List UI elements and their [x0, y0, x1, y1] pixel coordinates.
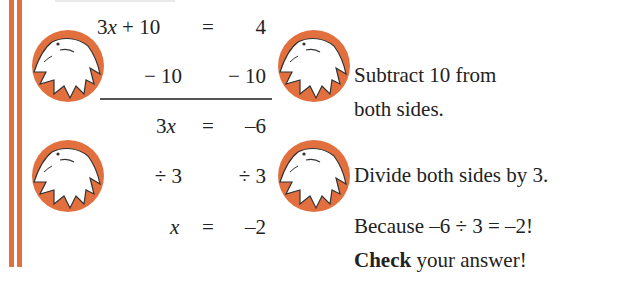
coefficient: 3	[97, 15, 108, 39]
subtraction-rule	[100, 98, 272, 100]
step-2-note: Divide both sides by 3.	[354, 158, 548, 192]
step-1-note-line-2: both sides.	[354, 92, 444, 126]
check-rest: your answer!	[411, 248, 526, 272]
variable: x	[108, 15, 117, 39]
left-orange-bar-inner	[17, 0, 22, 267]
equation-line-4-rhs: ÷ 3	[216, 164, 266, 188]
equation-line-3-rhs: –6	[226, 114, 266, 138]
equation-line-3-equals: =	[202, 114, 214, 138]
equation-line-4-lhs: ÷ 3	[130, 164, 182, 188]
hand-icon-right-top	[276, 28, 352, 104]
hand-icon-left-bottom	[30, 138, 106, 214]
step-1-note-line-1: Subtract 10 from	[354, 58, 496, 92]
equation-line-5-equals: =	[202, 215, 214, 239]
equation-line-5-lhs: x	[170, 215, 179, 239]
equation-line-3-lhs: 3x	[156, 114, 176, 138]
top-divider	[55, 0, 175, 2]
lhs-rest: + 10	[117, 15, 160, 39]
variable: x	[170, 215, 179, 239]
equation-line-1-lhs: 3x + 10	[97, 15, 160, 39]
hand-icon-right-bottom	[276, 138, 352, 214]
check-bold: Check	[354, 248, 411, 272]
equation-line-1-equals: =	[202, 15, 214, 39]
hand-icon-left-top	[30, 28, 106, 104]
equation-line-2-rhs: − 10	[206, 64, 266, 88]
variable: x	[167, 114, 176, 138]
because-note: Because –6 ÷ 3 = –2!	[354, 209, 533, 243]
coefficient: 3	[156, 114, 167, 138]
equation-line-5-rhs: –2	[226, 215, 266, 239]
left-orange-bar-outer	[9, 0, 14, 267]
equation-line-1-rhs: 4	[236, 15, 266, 39]
equation-line-2-lhs: − 10	[120, 64, 182, 88]
check-answer-note: Check your answer!	[354, 243, 527, 277]
